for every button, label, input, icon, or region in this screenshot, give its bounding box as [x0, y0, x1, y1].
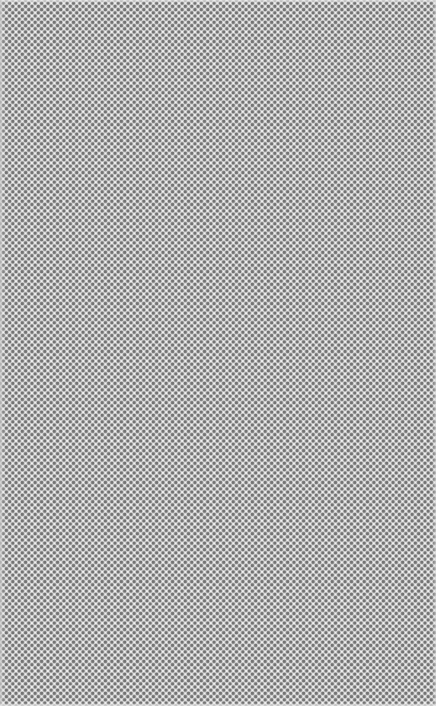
halftone-dot-pattern: Halftone dot pattern	[0, 0, 436, 706]
top-edge-fade	[0, 0, 436, 3]
left-edge-shadow	[0, 0, 5, 706]
